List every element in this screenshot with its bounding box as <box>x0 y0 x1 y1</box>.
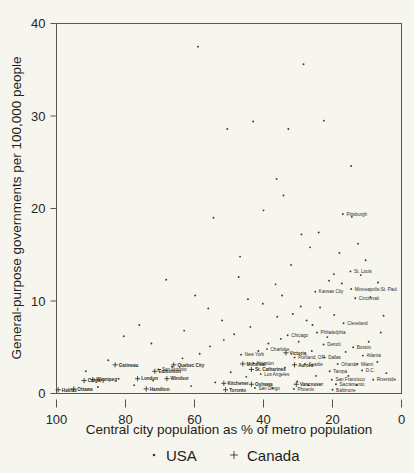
usa-point-dot <box>333 273 335 275</box>
usa-point-dot <box>240 354 242 356</box>
usa-point-dot <box>221 319 223 321</box>
point-label: Riverside <box>377 377 397 382</box>
point-label: Windsor <box>171 376 190 381</box>
usa-point-dot <box>238 276 240 278</box>
usa-point-dot <box>207 307 209 309</box>
usa-point-dot <box>214 381 216 383</box>
legend-usa-label: USA <box>166 447 197 464</box>
usa-point-dot <box>266 348 268 350</box>
usa-point-dot <box>352 346 354 348</box>
usa-point-dot <box>354 297 356 299</box>
usa-point-dot <box>197 46 199 48</box>
point-label: Aurora <box>298 363 314 368</box>
usa-point-dot <box>349 270 351 272</box>
usa-point-dot <box>247 298 249 300</box>
point-label: Winnipeg <box>96 377 117 382</box>
point-label: Chicago <box>291 333 308 338</box>
usa-point-dot <box>376 361 378 363</box>
usa-point-dot <box>362 355 364 357</box>
legend-usa-marker-dot-icon <box>153 454 156 457</box>
usa-point-dot <box>331 379 333 381</box>
usa-point-dot <box>298 341 300 343</box>
usa-point-dot <box>329 370 331 372</box>
point-label: Montreal <box>246 362 265 367</box>
usa-point-dot <box>312 324 314 326</box>
point-label: Gatineau <box>119 363 139 368</box>
point-label: St. Louis <box>354 269 373 274</box>
point-label: Kitchener <box>227 381 248 386</box>
usa-point-dot <box>287 334 289 336</box>
point-label: Dallas <box>328 355 341 360</box>
usa-point-dot <box>335 383 337 385</box>
point-label: Kansas City <box>319 289 344 294</box>
usa-point-dot <box>328 280 330 282</box>
point-label: Portland, OR <box>298 355 325 360</box>
usa-point-dot <box>281 295 283 297</box>
point-label: New York <box>245 352 265 357</box>
point-label: Vancouver <box>300 382 323 387</box>
usa-point-dot <box>341 282 343 284</box>
usa-point-dot <box>314 291 316 293</box>
usa-point-dot <box>323 120 325 122</box>
usa-point-dot <box>233 333 235 335</box>
usa-point-dot <box>365 259 367 261</box>
y-tick-label: 40 <box>31 16 45 31</box>
usa-point-dot <box>350 165 352 167</box>
chart-svg: 010203040 100806040200 PittsburghSt. Lou… <box>0 0 414 473</box>
usa-point-dot <box>190 385 192 387</box>
point-label: Hamilton <box>150 387 170 392</box>
usa-point-dot <box>276 316 278 318</box>
usa-point-dot <box>372 379 374 381</box>
usa-point-dot <box>292 313 294 315</box>
point-label: Toronto <box>229 388 246 393</box>
usa-point-dot <box>357 243 359 245</box>
chart-background <box>0 0 414 473</box>
usa-point-dot <box>249 326 251 328</box>
point-label: Los Angeles <box>264 372 290 377</box>
usa-point-dot <box>306 319 308 321</box>
usa-point-dot <box>315 375 317 377</box>
usa-point-dot <box>290 264 292 266</box>
usa-point-dot <box>133 384 135 386</box>
usa-point-dot <box>368 341 370 343</box>
point-label: Detroit <box>327 342 341 347</box>
point-label: Oshawa <box>255 382 273 387</box>
point-label: Sacramento <box>340 382 365 387</box>
scatter-plot-figure: 010203040 100806040200 PittsburghSt. Lou… <box>0 0 414 473</box>
usa-point-dot <box>209 345 211 347</box>
usa-point-dot <box>283 195 285 197</box>
usa-point-dot <box>213 217 215 219</box>
usa-point-dot <box>319 307 321 309</box>
point-label: Miami <box>361 362 373 367</box>
usa-point-dot <box>338 252 340 254</box>
point-label: Minneapolis-St. Paul <box>355 287 397 292</box>
usa-point-dot <box>245 376 247 378</box>
point-label: Edmonton <box>158 369 181 374</box>
x-axis-title: Central city population as % of metro po… <box>86 422 373 437</box>
usa-point-dot <box>301 233 303 235</box>
usa-point-dot <box>150 343 152 345</box>
usa-point-dot <box>252 121 254 123</box>
x-tick-label: 100 <box>46 412 68 427</box>
point-label: Pittsburgh <box>346 212 367 217</box>
legend-canada-label: Canada <box>247 447 300 464</box>
usa-point-dot <box>350 288 352 290</box>
usa-point-dot <box>294 356 296 358</box>
usa-point-dot <box>199 353 201 355</box>
usa-point-dot <box>181 357 183 359</box>
usa-point-dot <box>345 351 347 353</box>
point-label: Victoria <box>290 351 307 356</box>
usa-point-dot <box>239 256 241 258</box>
usa-point-dot <box>383 315 385 317</box>
point-label: Cleveland <box>347 321 368 326</box>
usa-point-dot <box>267 343 269 345</box>
usa-point-dot <box>323 344 325 346</box>
usa-point-dot <box>360 274 362 276</box>
usa-point-dot <box>377 282 379 284</box>
usa-point-dot <box>97 386 99 388</box>
point-label: Boston <box>357 345 372 350</box>
usa-point-dot <box>194 295 196 297</box>
usa-point-dot <box>300 306 302 308</box>
y-tick-label: 0 <box>38 386 45 401</box>
usa-point-dot <box>165 279 167 281</box>
